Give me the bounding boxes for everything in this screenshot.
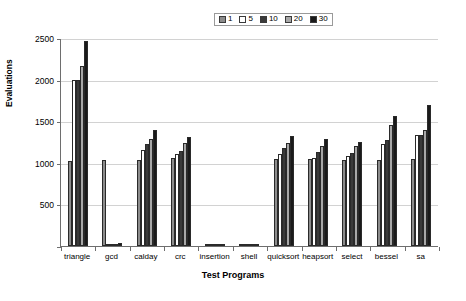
x-axis-title: Test Programs — [0, 270, 466, 280]
bar-group — [335, 39, 369, 246]
bar-groups — [61, 39, 438, 246]
bar — [187, 137, 191, 246]
bar — [153, 130, 157, 246]
y-axis-tick-label: 500 — [40, 201, 54, 210]
bar-group — [164, 39, 198, 246]
y-axis-tick-label: 1500 — [35, 118, 54, 127]
bar-group — [130, 39, 164, 246]
x-axis-tick-label: select — [335, 252, 369, 261]
x-axis-tick — [439, 247, 440, 251]
bar — [290, 136, 294, 246]
bar-group — [61, 39, 95, 246]
legend-item: 30 — [310, 15, 328, 23]
x-axis-tick-label: heapsort — [301, 252, 335, 261]
x-axis-tick-labels: trianglegcdcaldaycrcinsertionshellquicks… — [60, 252, 438, 261]
x-axis-tick — [302, 247, 303, 251]
x-axis-tick-label: triangle — [60, 252, 94, 261]
bar-group — [369, 39, 403, 246]
legend-label-1: 1 — [228, 15, 232, 23]
bar-group — [267, 39, 301, 246]
x-axis-tick-label: calday — [129, 252, 163, 261]
legend-label-5: 5 — [248, 15, 252, 23]
legend-swatch-20 — [285, 16, 292, 23]
bar — [393, 116, 397, 246]
x-axis-tick-label: quicksort — [266, 252, 300, 261]
y-axis-title: Evaluations — [4, 59, 14, 107]
bar-group — [232, 39, 266, 246]
legend-swatch-10 — [260, 16, 267, 23]
x-axis-tick — [95, 247, 96, 251]
legend-swatch-30 — [310, 16, 317, 23]
bar — [427, 105, 431, 246]
x-axis-tick-label: shell — [232, 252, 266, 261]
x-axis-tick-label: gcd — [94, 252, 128, 261]
x-axis-tick — [405, 247, 406, 251]
plot-area — [60, 39, 438, 247]
x-axis-tick-label: insertion — [197, 252, 231, 261]
bar-group — [198, 39, 232, 246]
x-axis-tick-label: bessel — [369, 252, 403, 261]
x-axis-tick — [130, 247, 131, 251]
x-axis-tick-label: sa — [404, 252, 438, 261]
legend-label-30: 30 — [319, 15, 328, 23]
legend-item: 10 — [260, 15, 278, 23]
bar — [324, 139, 328, 246]
x-axis-tick — [336, 247, 337, 251]
x-axis-tick — [164, 247, 165, 251]
x-axis-tick — [267, 247, 268, 251]
bar-group — [404, 39, 438, 246]
bar-group — [301, 39, 335, 246]
bar — [255, 244, 259, 246]
bar — [84, 41, 88, 246]
bar-group — [95, 39, 129, 246]
x-axis-tick — [233, 247, 234, 251]
legend-swatch-1 — [219, 16, 226, 23]
legend-label-10: 10 — [269, 15, 278, 23]
bar — [102, 160, 106, 246]
x-axis-tick — [198, 247, 199, 251]
x-axis-tick — [61, 247, 62, 251]
bar-chart: 1 5 10 20 30 Evaluations 500100015002000… — [0, 0, 466, 301]
legend-swatch-5 — [239, 16, 246, 23]
x-axis-tick-label: crc — [163, 252, 197, 261]
bar — [221, 244, 225, 246]
y-axis-tick-label: 2000 — [35, 77, 54, 86]
bar — [118, 243, 122, 246]
legend-label-20: 20 — [294, 15, 303, 23]
y-axis-tick-label: 2500 — [35, 35, 54, 44]
bar — [358, 142, 362, 246]
legend-item: 5 — [239, 15, 252, 23]
x-axis-tick — [370, 247, 371, 251]
y-axis-tick-label: 1000 — [35, 160, 54, 169]
legend-item: 1 — [219, 15, 232, 23]
legend-item: 20 — [285, 15, 303, 23]
chart-legend: 1 5 10 20 30 — [214, 13, 333, 26]
